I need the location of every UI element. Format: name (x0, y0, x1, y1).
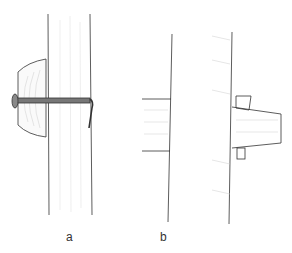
panel-b (142, 32, 281, 224)
post-right-edge-b (229, 32, 232, 224)
nail-shaft (14, 98, 90, 103)
post-left-edge (48, 14, 49, 215)
beam-left (142, 99, 171, 151)
illustration (0, 0, 292, 253)
post-left-edge-b (168, 34, 172, 222)
label-b: b (160, 230, 167, 244)
tenon (232, 107, 281, 148)
wedge-bottom (237, 148, 245, 159)
panel-a (12, 14, 93, 215)
label-a: a (66, 230, 73, 244)
nail-head (12, 94, 18, 108)
